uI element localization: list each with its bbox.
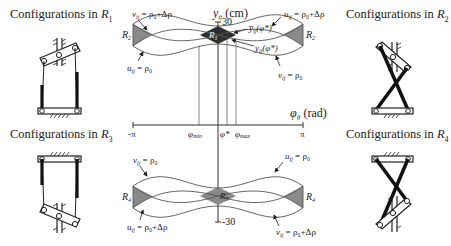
- mechanism-r3: [38, 152, 81, 233]
- ann-bottom-right: vij = ρ₀: [278, 70, 303, 81]
- region-r2-left: [133, 24, 152, 46]
- mechanism-r2: [372, 42, 413, 118]
- label-r2-left: R2: [121, 29, 131, 41]
- x-axis-label: φij (rad): [290, 106, 327, 121]
- x-tick-neg-pi: -π: [128, 129, 136, 139]
- label-r4-left: R4: [121, 191, 131, 203]
- ann-bottom-top-right: uij = ρ₀: [285, 151, 310, 162]
- ann-top-right: uij = ρ₀+Δρ: [284, 9, 325, 20]
- mechanism-r4: [372, 152, 413, 232]
- x-tick-phi-star: φ*: [220, 129, 230, 139]
- label-r2-right: R2: [305, 29, 315, 41]
- y-tick-bottom: -30: [222, 216, 235, 227]
- x-tick-phi-min: φmin: [188, 129, 202, 139]
- mechanism-r1: [38, 38, 81, 118]
- label-r4-right: R4: [305, 191, 315, 203]
- region-r4-right: [284, 186, 303, 208]
- y-tick-top: 30: [222, 16, 232, 27]
- ann-upper-bound: y̅ij(φ*): [248, 23, 272, 34]
- region-r2-right: [284, 24, 303, 46]
- x-tick-phi-max: φmax: [235, 129, 250, 139]
- ann-bottom-left: uij = ρ₀: [127, 63, 152, 74]
- ann-bottom-top-left: vij = ρ₀: [133, 155, 158, 166]
- diagram-canvas: yij (cm) 30 -30 φij (rad) -π φmin φ* φma…: [0, 0, 451, 246]
- x-tick-pi: π: [300, 129, 305, 139]
- region-r4-left: [133, 186, 152, 208]
- ann-top-left: vij = ρ₀+Δρ: [132, 9, 172, 20]
- ann-bottom-bottom-left: uij = ρ₀+Δρ: [127, 222, 168, 233]
- plot: yij (cm) 30 -30 φij (rad) -π φmin φ* φma…: [121, 6, 327, 238]
- ann-bottom-bottom-right: vij = ρ₀+Δρ: [276, 227, 316, 238]
- ann-lower-bound: yij(φ*): [254, 43, 278, 54]
